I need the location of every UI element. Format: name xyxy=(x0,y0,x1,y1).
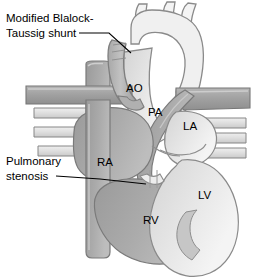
right-pa-highlight xyxy=(182,91,248,92)
label-right-ventricle: RV xyxy=(143,214,159,226)
label-right-atrium: RA xyxy=(97,156,113,168)
label-left-atrium: LA xyxy=(183,120,197,132)
heart-anatomy-figure: Modified Blalock- Taussig shunt Pulmonar… xyxy=(0,0,253,279)
pulmonary-stenosis-label-line1: Pulmonary xyxy=(6,155,61,167)
label-pulmonary-artery: PA xyxy=(148,106,163,118)
bt-shunt-label-line2: Taussig shunt xyxy=(6,27,77,39)
label-left-ventricle: LV xyxy=(198,189,212,201)
heart-diagram-svg: Modified Blalock- Taussig shunt Pulmonar… xyxy=(0,0,253,279)
label-aorta: AO xyxy=(126,82,143,94)
pulmonary-stenosis-label-line2: stenosis xyxy=(6,170,48,182)
bt-shunt-label-line1: Modified Blalock- xyxy=(6,12,94,24)
